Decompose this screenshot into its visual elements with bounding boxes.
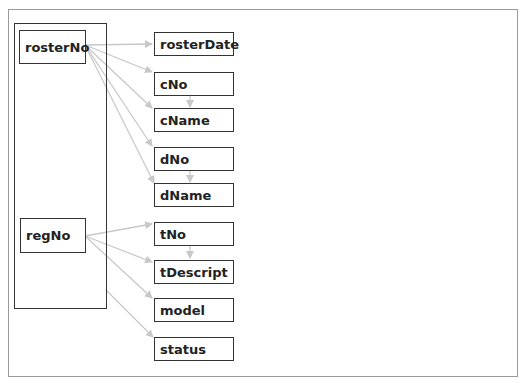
node-label: tDescript — [160, 265, 228, 280]
node-model[interactable]: model — [154, 298, 234, 322]
node-tNo[interactable]: tNo — [154, 222, 234, 246]
node-label: tNo — [160, 227, 186, 242]
node-label: rosterDate — [160, 37, 239, 52]
node-label: cNo — [160, 77, 188, 92]
node-label: regNo — [26, 228, 70, 243]
node-dName[interactable]: dName — [154, 183, 234, 207]
node-status[interactable]: status — [154, 337, 234, 361]
composite-key-group — [14, 23, 107, 309]
node-regNo[interactable]: regNo — [20, 218, 86, 253]
arrow-keygroup-status — [106, 290, 153, 337]
node-label: status — [160, 342, 206, 357]
node-label: dNo — [160, 152, 189, 167]
node-rosterDate[interactable]: rosterDate — [154, 32, 234, 56]
node-tDescript[interactable]: tDescript — [154, 260, 234, 284]
node-rosterNo[interactable]: rosterNo — [19, 30, 86, 64]
node-label: rosterNo — [25, 40, 89, 55]
node-label: model — [160, 303, 205, 318]
node-cName[interactable]: cName — [154, 108, 234, 132]
node-dNo[interactable]: dNo — [154, 147, 234, 171]
node-label: dName — [160, 188, 211, 203]
node-label: cName — [160, 113, 210, 128]
node-cNo[interactable]: cNo — [154, 72, 234, 96]
